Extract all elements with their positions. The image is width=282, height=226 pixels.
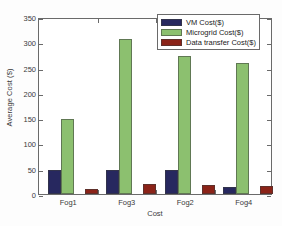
x-axis-category-label: Fog2 [177,198,194,207]
bar [61,119,74,194]
y-axis-tick-mirror [267,171,271,172]
bar [260,186,273,194]
x-axis-category-label: Fog3 [118,198,135,207]
y-axis-tick-mirror [267,70,271,71]
x-axis-category-label: Fog4 [235,198,252,207]
y-axis-tick-mirror [267,196,271,197]
bar [165,170,178,194]
y-axis-tick-label: 150 [10,115,36,124]
x-axis-tick-mirror [98,19,99,23]
y-axis-tick: 150 [39,120,43,121]
bar-chart-figure: Average Cost ($) 050100150200250300350Fo… [0,0,282,226]
y-axis-tick-mirror [267,95,271,96]
y-axis-tick-label: 300 [10,39,36,48]
x-axis-title: Cost [38,209,272,218]
legend-item: Data transfer Cost($) [161,37,256,47]
bar [85,189,98,194]
y-axis-tick-mirror [267,120,271,121]
bar [143,184,156,194]
legend-item: Microgrid Cost($) [161,27,256,37]
x-axis-category-label: Fog1 [60,198,77,207]
chart-legend: VM Cost($)Microgrid Cost($)Data transfer… [157,14,260,50]
y-axis-tick-label: 0 [10,191,36,200]
y-axis-tick-mirror [267,145,271,146]
legend-label: VM Cost($) [186,18,224,27]
bar [236,63,249,194]
y-axis-tick: 0 [39,196,43,197]
legend-item: VM Cost($) [161,17,256,27]
y-axis-tick-label: 250 [10,65,36,74]
bar [119,39,132,194]
y-axis-tick: 350 [39,19,43,20]
y-axis-tick-mirror [267,19,271,20]
x-axis-tick [98,190,99,194]
legend-swatch [161,39,182,46]
y-axis-tick: 200 [39,95,43,96]
bar [48,170,61,194]
legend-swatch [161,29,182,36]
y-axis-tick-label: 350 [10,14,36,23]
y-axis-tick: 300 [39,44,43,45]
y-axis-tick: 250 [39,70,43,71]
x-axis-tick [156,190,157,194]
y-axis-tick-label: 200 [10,90,36,99]
legend-label: Microgrid Cost($) [186,28,244,37]
y-axis-tick: 100 [39,145,43,146]
y-axis-tick-mirror [267,44,271,45]
y-axis-tick-label: 50 [10,166,36,175]
bar [178,56,191,194]
bar [202,185,215,194]
bar [106,170,119,194]
y-axis-tick: 50 [39,171,43,172]
x-axis-tick [215,190,216,194]
legend-swatch [161,19,182,26]
legend-label: Data transfer Cost($) [186,38,256,47]
y-axis-tick-label: 100 [10,140,36,149]
bar [223,187,236,194]
